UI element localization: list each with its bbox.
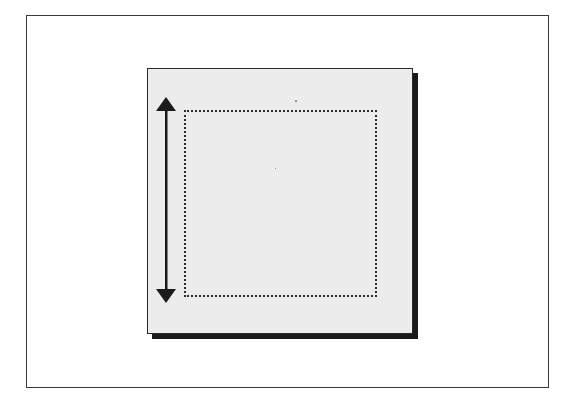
arrow-shaft <box>165 105 168 290</box>
speck-mark <box>295 100 297 102</box>
vertical-double-arrow-icon <box>150 90 180 310</box>
arrow-head-down-icon <box>156 289 176 303</box>
arrow-head-up-icon <box>156 97 176 111</box>
dotted-inner-rectangle <box>184 110 377 297</box>
speck-mark <box>275 168 276 169</box>
